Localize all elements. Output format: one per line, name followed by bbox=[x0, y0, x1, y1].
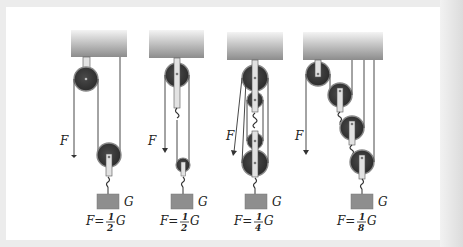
axle bbox=[254, 77, 257, 80]
formula-suffix: G bbox=[190, 214, 200, 228]
arrow-head bbox=[71, 155, 77, 158]
rope bbox=[242, 80, 246, 163]
pulley-diagram: F F F F G G G G F= 1 2 G F= 1 2 G F= 1 4… bbox=[0, 0, 463, 247]
arrow-head bbox=[231, 150, 237, 156]
rope bbox=[234, 78, 242, 152]
formula-prefix: F= bbox=[85, 214, 104, 228]
denominator: 2 bbox=[180, 223, 187, 233]
weight-block bbox=[171, 194, 193, 209]
weight-label: G bbox=[124, 195, 134, 209]
system-1 bbox=[71, 30, 127, 209]
formula-prefix: F= bbox=[233, 214, 252, 228]
axle bbox=[254, 140, 257, 143]
formula-1: F= 1 2 G bbox=[85, 212, 126, 233]
weight-label: G bbox=[198, 195, 208, 209]
hook bbox=[338, 112, 342, 122]
force-label: F bbox=[147, 134, 157, 148]
formula-suffix: G bbox=[367, 214, 377, 228]
hook bbox=[254, 178, 257, 188]
formula-4: F= 1 8 G bbox=[336, 212, 377, 233]
arrow-head bbox=[303, 150, 309, 155]
ceiling-block bbox=[71, 30, 127, 57]
formula-prefix: F= bbox=[159, 214, 178, 228]
axle bbox=[254, 99, 257, 102]
axle bbox=[361, 157, 364, 160]
formula-3: F= 1 4 G bbox=[233, 212, 274, 233]
axle bbox=[108, 156, 111, 159]
weight-block bbox=[245, 194, 267, 209]
arrow-head bbox=[162, 148, 168, 153]
formula-prefix: F= bbox=[336, 214, 355, 228]
hook bbox=[182, 177, 185, 187]
formula-suffix: G bbox=[116, 214, 126, 228]
numerator: 1 bbox=[256, 212, 262, 222]
force-label: F bbox=[59, 134, 69, 148]
system-4 bbox=[303, 32, 383, 209]
denominator: 4 bbox=[255, 223, 261, 233]
numerator: 1 bbox=[182, 212, 188, 222]
hook bbox=[361, 179, 364, 189]
force-label: F bbox=[225, 129, 235, 143]
system-3 bbox=[227, 32, 283, 209]
hook bbox=[176, 108, 180, 118]
axle bbox=[339, 90, 342, 93]
hook bbox=[107, 177, 110, 187]
denominator: 2 bbox=[106, 223, 113, 233]
numerator: 1 bbox=[108, 212, 114, 222]
denominator: 8 bbox=[358, 223, 365, 233]
axle bbox=[254, 162, 257, 165]
formula-2: F= 1 2 G bbox=[159, 212, 200, 233]
ceiling-block bbox=[149, 30, 204, 58]
axle bbox=[317, 73, 320, 76]
weight-block bbox=[351, 194, 373, 209]
numerator: 1 bbox=[359, 212, 365, 222]
strap bbox=[252, 131, 258, 177]
system-2 bbox=[149, 30, 204, 209]
ceiling-block bbox=[303, 32, 383, 60]
axle bbox=[176, 73, 179, 76]
axle bbox=[351, 123, 354, 126]
axle bbox=[85, 78, 88, 81]
strap bbox=[174, 58, 180, 108]
ceiling-block bbox=[227, 32, 283, 60]
hooks bbox=[253, 113, 257, 128]
weight-label: G bbox=[378, 195, 388, 209]
weight-label: G bbox=[272, 195, 282, 209]
force-label: F bbox=[294, 129, 304, 143]
formula-suffix: G bbox=[264, 214, 274, 228]
strap bbox=[181, 162, 186, 176]
strap bbox=[252, 60, 258, 112]
weight-block bbox=[97, 194, 119, 209]
